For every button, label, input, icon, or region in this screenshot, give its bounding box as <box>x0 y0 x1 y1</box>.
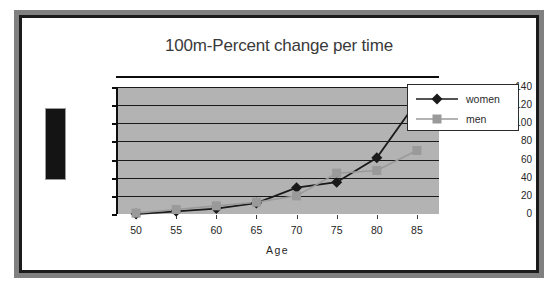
legend-item-men: men <box>408 109 518 129</box>
y-tick-mark <box>112 105 117 107</box>
x-tick-label: 50 <box>119 224 153 236</box>
x-tick-label: 60 <box>199 224 233 236</box>
x-axis-title: Age <box>116 244 439 256</box>
x-tick-label: 75 <box>320 224 354 236</box>
gridline <box>118 196 439 197</box>
gridline <box>118 123 439 124</box>
x-tick-mark <box>176 215 177 219</box>
y-tick-mark <box>112 160 117 162</box>
x-tick-mark <box>136 215 137 219</box>
chart-legend: womenmen <box>407 84 519 131</box>
y-tick-mark <box>112 178 117 180</box>
x-tick-label: 70 <box>280 224 314 236</box>
y-tick-label: 40 <box>486 173 532 183</box>
gridline <box>118 105 439 106</box>
x-tick-label: 65 <box>239 224 273 236</box>
x-tick-label: 80 <box>360 224 394 236</box>
legend-marker-diamond-icon <box>414 89 460 109</box>
gridline <box>118 87 439 88</box>
x-axis-line <box>116 76 439 78</box>
legend-label: men <box>466 113 486 125</box>
y-tick-label: 20 <box>486 191 532 201</box>
x-tick-mark <box>377 215 378 219</box>
gridline <box>118 178 439 179</box>
gridline <box>118 141 439 142</box>
x-tick-label: 55 <box>159 224 193 236</box>
legend-marker-square-icon <box>414 109 460 129</box>
y-tick-label: 0 <box>486 209 532 219</box>
y-tick-mark <box>112 141 117 143</box>
x-tick-mark <box>216 215 217 219</box>
x-tick-mark <box>417 215 418 219</box>
x-tick-mark <box>337 215 338 219</box>
y-tick-mark <box>112 123 117 125</box>
x-tick-mark <box>297 215 298 219</box>
slide-canvas: 100m-Percent change per time 02040608010… <box>19 15 539 273</box>
y-tick-mark <box>112 87 117 89</box>
y-tick-mark <box>112 196 117 198</box>
x-tick-mark <box>256 215 257 219</box>
plot-area <box>116 87 439 214</box>
y-tick-mark <box>112 214 117 216</box>
y-tick-label: 60 <box>486 155 532 165</box>
legend-item-women: women <box>408 89 518 109</box>
x-tick-label: 85 <box>400 224 434 236</box>
slide-frame: 100m-Percent change per time 02040608010… <box>14 10 544 278</box>
y-tick-label: 80 <box>486 136 532 146</box>
chart-title: 100m-Percent change per time <box>22 36 536 56</box>
gridline <box>118 160 439 161</box>
legend-label: women <box>466 93 500 105</box>
